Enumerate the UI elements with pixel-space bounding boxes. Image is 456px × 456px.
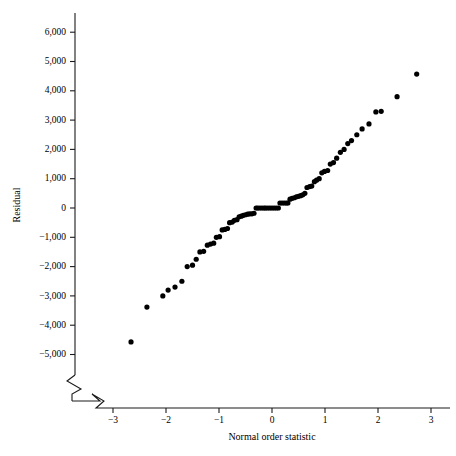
y-axis-tick-label: 0: [61, 203, 66, 213]
x-axis-break-icon: [72, 394, 104, 408]
data-point: [414, 72, 419, 77]
data-point: [360, 126, 365, 131]
data-point: [394, 94, 399, 99]
data-point: [325, 168, 330, 173]
data-point: [366, 121, 371, 126]
data-point: [185, 264, 190, 269]
data-points: [128, 72, 419, 345]
x-axis-tick-label: 2: [376, 415, 381, 425]
data-point: [166, 287, 171, 292]
y-axis-tick-label: −3,000: [39, 291, 66, 301]
y-axis-tick-label: 3,000: [45, 115, 67, 125]
y-axis-tick-label: −5,000: [39, 349, 66, 359]
data-point: [379, 109, 384, 114]
chart-canvas: −5,000−4,000−3,000−2,000−1,00001,0002,00…: [0, 0, 456, 456]
data-point: [144, 304, 149, 309]
normal-probability-plot: −5,000−4,000−3,000−2,000−1,00001,0002,00…: [0, 0, 456, 456]
data-point: [309, 183, 314, 188]
y-axis-tick-label: 2,000: [45, 144, 67, 154]
data-point: [190, 263, 195, 268]
data-point: [211, 241, 216, 246]
data-point: [317, 176, 322, 181]
data-point: [302, 191, 307, 196]
data-point: [201, 249, 206, 254]
data-point: [341, 147, 346, 152]
data-point: [179, 279, 184, 284]
data-point: [225, 226, 230, 231]
data-point: [172, 285, 177, 290]
data-point: [349, 138, 354, 143]
data-point: [194, 257, 199, 262]
y-axis-tick-label: −4,000: [39, 320, 66, 330]
data-point: [128, 339, 133, 344]
y-axis-tick-label: 5,000: [45, 56, 67, 66]
y-axis-tick-labels: −5,000−4,000−3,000−2,000−1,00001,0002,00…: [39, 27, 66, 359]
x-axis-tick-label: −1: [214, 415, 224, 425]
data-point: [251, 211, 256, 216]
x-axis-tick-label: −2: [161, 415, 171, 425]
y-axis-tick-label: −2,000: [39, 261, 66, 271]
y-axis-tick-label: −1,000: [39, 232, 66, 242]
data-point: [160, 293, 165, 298]
x-axis-tick-label: −3: [108, 415, 118, 425]
x-axis-tick-labels: −3−2−10123: [108, 415, 434, 425]
data-point: [331, 160, 336, 165]
data-point: [373, 109, 378, 114]
x-axis-tick-label: 0: [270, 415, 275, 425]
y-axis-break-icon: [67, 375, 81, 401]
y-axis-tick-label: 4,000: [45, 85, 67, 95]
x-axis-tick-label: 3: [429, 415, 434, 425]
x-axis-ticks: [113, 408, 431, 413]
x-axis-group: −3−2−10123: [72, 394, 450, 425]
y-axis-tick-label: 6,000: [45, 27, 67, 37]
x-axis-title: Normal order statistic: [228, 431, 316, 442]
y-axis-group: −5,000−4,000−3,000−2,000−1,00001,0002,00…: [39, 13, 81, 401]
y-axis-tick-label: 1,000: [45, 173, 67, 183]
data-point: [334, 156, 339, 161]
x-axis-tick-label: 1: [323, 415, 328, 425]
data-point: [276, 205, 281, 210]
y-axis-ticks: [70, 32, 75, 354]
y-axis-title: Residual: [11, 187, 22, 222]
data-point: [217, 234, 222, 239]
data-point: [354, 132, 359, 137]
